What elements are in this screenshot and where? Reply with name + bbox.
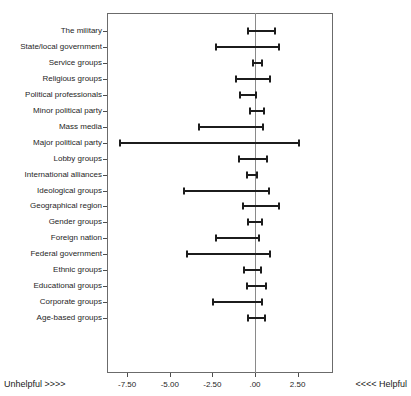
category-tick [103,254,107,255]
x-axis-tick [127,373,128,377]
category-tick [103,111,107,112]
category-label: Lobby groups [54,155,102,163]
category-tick [103,63,107,64]
error-bar-cap-high [261,299,263,306]
x-axis-tick-label: -2.50 [203,381,221,389]
error-bar-cap-low [215,235,217,242]
error-bar [183,190,270,192]
category-label: Foreign nation [51,234,102,242]
error-bar-cap-low [215,43,217,50]
error-bar-cap-high [266,155,268,162]
category-label: Geographical region [30,202,102,210]
error-bar [246,174,258,176]
category-label: Religious groups [42,75,102,83]
error-bar [215,46,280,48]
category-tick [103,143,107,144]
error-bar-cap-high [278,43,280,50]
x-axis-tick [212,373,213,377]
category-tick [103,127,107,128]
error-bar-cap-low [186,251,188,258]
error-bar-cap-high [261,219,263,226]
category-label: Ideological groups [37,187,102,195]
error-bar-cap-low [246,283,248,290]
error-bar-cap-high [265,283,267,290]
category-tick [103,222,107,223]
error-bar [249,110,265,112]
x-axis-tick [170,373,171,377]
error-bar [242,205,280,207]
error-bar-cap-low [183,187,185,194]
category-tick [103,47,107,48]
category-tick [103,31,107,32]
error-bar-cap-high [256,171,258,178]
category-label: International alliances [25,171,102,179]
error-bar-cap-high [255,91,257,98]
error-bar-cap-high [278,203,280,210]
error-bar [247,221,263,223]
category-tick [103,270,107,271]
error-bar-cap-low [235,75,237,82]
error-bar [235,78,271,80]
error-bar [215,237,260,239]
error-bar-cap-low [238,155,240,162]
category-tick [103,175,107,176]
category-tick [103,238,107,239]
error-bar [239,94,257,96]
category-tick [103,191,107,192]
error-bar-cap-high [258,235,260,242]
category-label: The military [61,27,102,35]
category-label: Political professionals [25,91,102,99]
x-axis-tick-label: -7.50 [118,381,136,389]
category-label: State/local government [20,43,102,51]
error-bar-cap-low [247,315,249,322]
error-bar-cap-low [252,59,254,66]
error-bar [247,317,266,319]
category-tick [103,159,107,160]
error-bar [246,285,267,287]
error-bar-cap-low [242,203,244,210]
error-bar [119,142,300,144]
unhelpful-axis-note: Unhelpful >>>> [4,380,66,389]
error-bar [198,126,265,128]
error-bar-cap-low [249,107,251,114]
helpful-axis-note: <<<< Helpful [355,380,407,389]
error-bar-chart: The militaryState/local governmentServic… [0,0,411,396]
error-bar-cap-low [246,171,248,178]
error-bar [243,269,262,271]
error-bar [212,301,264,303]
category-label: Ethnic groups [53,266,102,274]
error-bar-cap-high [269,75,271,82]
error-bar-cap-low [247,28,249,35]
category-label: Mass media [59,123,102,131]
error-bar-cap-high [262,123,264,130]
error-bar-cap-low [239,91,241,98]
category-tick [103,286,107,287]
category-label: Service groups [49,59,102,67]
error-bar [238,158,268,160]
category-tick [103,95,107,96]
category-label: Federal government [30,250,102,258]
category-tick [103,302,107,303]
x-axis-tick [255,373,256,377]
error-bar [247,30,276,32]
error-bar-cap-high [264,315,266,322]
category-label: Major political party [33,139,102,147]
error-bar-cap-high [260,267,262,274]
x-axis-tick [298,373,299,377]
error-bar [252,62,263,64]
error-bar-cap-high [263,107,265,114]
error-bar-cap-low [119,139,121,146]
error-bar-cap-high [298,139,300,146]
error-bar-cap-high [261,59,263,66]
x-axis-tick-label: -5.00 [161,381,179,389]
category-label: Minor political party [33,107,102,115]
category-label: Educational groups [34,282,103,290]
category-tick [103,318,107,319]
error-bar-cap-low [243,267,245,274]
error-bar-cap-low [247,219,249,226]
error-bar-cap-high [268,187,270,194]
category-label: Corporate groups [40,298,102,306]
error-bar-cap-high [274,28,276,35]
x-axis-tick-label: 2.50 [290,381,306,389]
category-label: Age-based groups [37,314,102,322]
